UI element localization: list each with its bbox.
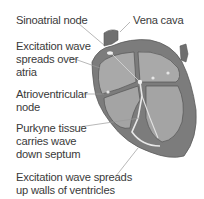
sa-node-dot <box>107 51 113 55</box>
label-excitation-ventricles: Excitation wave spreads up walls of vent… <box>16 171 132 197</box>
av-node-dot <box>138 80 142 84</box>
label-excitation-atria: Excitation wave spreads over atria <box>16 40 91 79</box>
vena-cava-shape <box>104 30 118 46</box>
label-atrioventricular-node: Atrioventricular node <box>16 88 87 114</box>
label-purkyne-tissue: Purkyne tissue carries wave down septum <box>16 122 87 161</box>
leader-vena-cava <box>120 22 130 32</box>
vessel-right-shape <box>180 44 188 62</box>
heart-conduction-diagram: Sinoatrial node Vena cava Excitation wav… <box>0 0 204 199</box>
label-vena-cava: Vena cava <box>133 14 183 27</box>
label-sinoatrial-node: Sinoatrial node <box>16 14 88 27</box>
